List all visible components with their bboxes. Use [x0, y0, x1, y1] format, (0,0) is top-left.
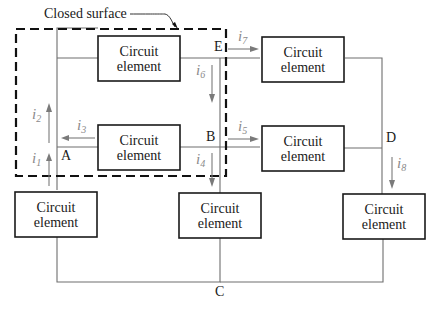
element-label-bottom-center: Circuit element	[179, 193, 261, 238]
node-label-a: A	[61, 148, 71, 164]
current-label-i3: i3	[77, 117, 86, 135]
current-label-i2: i2	[32, 106, 41, 124]
node-label-c: C	[215, 284, 224, 300]
node-label-d: D	[386, 130, 396, 146]
element-label-mid-right: Circuit element	[262, 126, 344, 171]
element-label-mid-left: Circuit element	[98, 125, 180, 170]
node-label-b: B	[206, 129, 215, 145]
current-label-i7: i7	[238, 28, 247, 46]
current-label-i1: i1	[32, 150, 41, 168]
element-label-top-right: Circuit element	[262, 37, 344, 82]
element-label-top-left: Circuit element	[98, 36, 180, 81]
circuit-diagram: Closed surface Circuit element Circuit e…	[0, 0, 434, 310]
closed-surface-caption: Closed surface	[44, 6, 127, 22]
current-label-i4: i4	[196, 151, 205, 169]
current-label-i8: i8	[397, 155, 406, 173]
current-label-i6: i6	[196, 62, 205, 80]
caption-pointer	[130, 14, 175, 27]
current-label-i5: i5	[238, 118, 247, 136]
element-label-bottom-right: Circuit element	[343, 194, 425, 239]
node-label-e: E	[214, 39, 223, 55]
element-label-bottom-left: Circuit element	[15, 192, 97, 237]
